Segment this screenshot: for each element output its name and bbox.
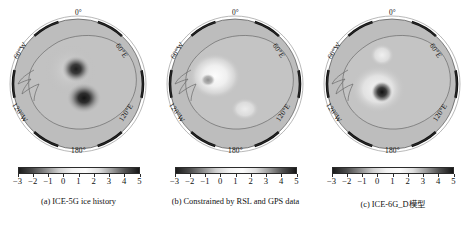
colorbar-tick-label: 5 [137, 176, 141, 186]
colorbar-tick-label: 2 [249, 176, 253, 186]
colorbar-gradient-a [18, 167, 140, 174]
colorbar-gradient-b [175, 167, 297, 174]
anomaly-blob-c1 [371, 81, 393, 103]
anomaly-blob-b3 [231, 98, 259, 120]
colorbar-gradient-c [332, 167, 454, 174]
anomaly-blob-a1 [62, 56, 90, 82]
colorbar-tick-label: 3 [264, 176, 268, 186]
colorbar-labels-a: −3−2−1012345 [18, 176, 140, 188]
colorbar-tick-label: −3 [327, 176, 336, 186]
panel-c: 0° 60°E 120°E 180° 120°W 60°W −3−2−10123… [314, 0, 471, 227]
colorbar-labels-c: −3−2−1012345 [332, 176, 454, 188]
colorbar-b: −3−2−1012345 [175, 167, 297, 188]
colorbar-tick-label: −3 [170, 176, 179, 186]
colorbar-tick-label: 4 [279, 176, 283, 186]
colorbar-tick-label: 0 [218, 176, 222, 186]
figure-antarctica-gia-panels: 0° 60°E 120°E 180° 120°W 60°W −3−2−10123… [0, 0, 471, 227]
colorbar-labels-b: −3−2−1012345 [175, 176, 297, 188]
colorbar-tick-label: 2 [92, 176, 96, 186]
globe-a: 0° 60°E 120°E 180° 120°W 60°W [0, 8, 157, 160]
colorbar-tick-label: 0 [61, 176, 65, 186]
colorbar-tick-label: 4 [436, 176, 440, 186]
lon-label-0: 0° [389, 8, 396, 17]
colorbar-tick-label: 2 [406, 176, 410, 186]
colorbar-tick-label: −2 [342, 176, 351, 186]
colorbar-tick-label: −1 [200, 176, 209, 186]
anomaly-blob-b1 [189, 53, 241, 99]
panel-a: 0° 60°E 120°E 180° 120°W 60°W −3−2−10123… [0, 0, 157, 227]
colorbar-tick-label: 3 [107, 176, 111, 186]
lon-label-0: 0° [75, 8, 82, 17]
anomaly-blob-c3 [370, 44, 394, 66]
colorbar-tick-label: −1 [357, 176, 366, 186]
lon-label-180: 180° [71, 146, 86, 155]
colorbar-tick-label: −1 [43, 176, 52, 186]
lon-label-0: 0° [232, 8, 239, 17]
colorbar-tick-label: 1 [390, 176, 394, 186]
lon-label-180: 180° [228, 146, 243, 155]
colorbar-tick-label: −3 [13, 176, 22, 186]
globe-a-svg [0, 8, 157, 160]
colorbar-tick-label: 0 [375, 176, 379, 186]
colorbar-a: −3−2−1012345 [18, 167, 140, 188]
anomaly-blob-a2 [67, 83, 101, 113]
colorbar-tick-label: 3 [421, 176, 425, 186]
colorbar-tick-label: −2 [28, 176, 37, 186]
globe-b: 0° 60°E 120°E 180° 120°W 60°W [157, 8, 314, 160]
colorbar-tick-label: −2 [185, 176, 194, 186]
panel-caption-c: (c) ICE-6G_D模型 [314, 197, 471, 209]
globe-c: 0° 60°E 120°E 180° 120°W 60°W [314, 8, 471, 160]
panel-b: 0° 60°E 120°E 180° 120°W 60°W −3−2−10123… [157, 0, 314, 227]
globe-c-svg [314, 8, 471, 160]
colorbar-tick-label: 4 [122, 176, 126, 186]
colorbar-tick-label: 5 [294, 176, 298, 186]
colorbar-tick-label: 1 [76, 176, 80, 186]
colorbar-tick-label: 5 [451, 176, 455, 186]
colorbar-tick-label: 1 [233, 176, 237, 186]
globe-b-svg [157, 8, 314, 160]
panel-caption-a: (a) ICE-5G ice history [0, 197, 157, 206]
anomaly-blob-b2 [201, 74, 215, 86]
colorbar-c: −3−2−1012345 [332, 167, 454, 188]
panel-caption-b: (b) Constrained by RSL and GPS data [157, 197, 314, 206]
lon-label-180: 180° [385, 146, 400, 155]
